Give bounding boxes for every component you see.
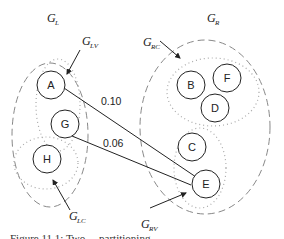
arrow-icon [53,180,70,210]
figure-caption: Figure 11.1: Two ... partitioning ... [10,232,162,239]
svg-text:H: H [43,153,51,165]
label-g-lc: G LC [53,180,86,225]
node-b: B [177,71,205,99]
label-g-l: G L [47,11,59,27]
node-h: H [33,145,61,173]
svg-text:G: G [61,118,70,130]
arrow-icon [160,41,180,58]
edge-g-e [72,136,191,185]
node-e: E [192,170,220,198]
node-c: C [178,133,206,161]
node-d: D [201,94,229,122]
graph-partition-diagram: 0.10 0.06 A G H B F D C E G L G R [0,0,284,239]
svg-text:C: C [188,141,196,153]
node-g: G [51,110,79,138]
svg-text:R: R [214,19,220,27]
label-g-r: G R [207,11,220,27]
node-a: A [37,71,65,99]
arrow-icon [67,50,80,74]
svg-text:L: L [54,19,59,27]
svg-text:LC: LC [76,217,86,225]
node-f: F [213,64,241,92]
label-g-lv: G LV [67,34,99,74]
edge-weight-g-e: 0.06 [103,137,124,149]
svg-text:RC: RC [150,43,160,51]
svg-text:A: A [47,79,55,91]
svg-text:D: D [211,102,219,114]
svg-text:F: F [224,72,231,84]
edge-weight-a-e: 0.10 [101,95,122,107]
label-g-rv: G RV [141,193,186,233]
label-g-rc: G RC [143,35,180,58]
edge-a-e [64,88,196,177]
svg-text:LV: LV [89,42,99,50]
arrow-icon [150,193,186,208]
svg-text:B: B [187,79,194,91]
svg-text:E: E [202,178,209,190]
